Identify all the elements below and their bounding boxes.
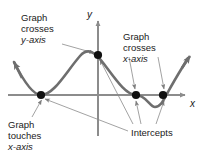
annotation-line: touches: [8, 130, 41, 141]
annotation-crosses-y-axis: Graph crosses y-axis: [21, 12, 54, 45]
annotation-line: crosses: [123, 42, 156, 53]
annotation-line: y-axis: [21, 34, 54, 45]
annotation-line: Graph: [21, 12, 54, 23]
leader-touches-x-axis: [32, 100, 42, 117]
annotation-line: Intercepts: [131, 127, 173, 138]
leader-intercepts-to-x-left: [136, 101, 141, 124]
curve-end-arrowhead: [182, 56, 190, 68]
annotation-line: Graph: [8, 119, 41, 130]
annotation-line: Graph: [123, 31, 156, 42]
curve-start-arrowhead: [14, 62, 22, 78]
annotation-intercepts: Intercepts: [131, 127, 173, 138]
annotation-line: crosses: [21, 23, 54, 34]
annotation-crosses-x-axis: Graph crosses x-axis: [123, 31, 156, 64]
point-x-intercept-tangent: [37, 91, 45, 99]
annotation-touches-x-axis: Graph touches x-axis: [8, 119, 41, 152]
point-x-intercept-left: [132, 91, 140, 99]
leader-intercepts-to-tangent: [45, 99, 128, 131]
annotation-line: x-axis: [123, 53, 156, 64]
annotation-line: x-axis: [8, 141, 41, 152]
point-y-intercept: [94, 51, 102, 59]
point-x-intercept-right: [159, 91, 167, 99]
figure-polynomial-intercepts: Graph crosses y-axis Graph crosses x-axi…: [0, 0, 208, 167]
leader-crosses-x-axis-b: [158, 57, 164, 89]
x-axis-label: x: [190, 98, 195, 109]
y-axis-label: y: [87, 9, 92, 20]
